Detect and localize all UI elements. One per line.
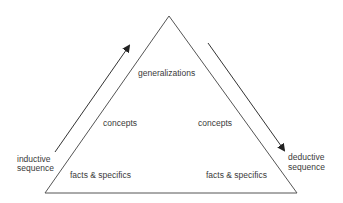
pyramid-triangle [45,16,297,193]
deductive-arrow [208,43,284,150]
concepts-right-label: concepts [198,118,232,128]
induction-deduction-diagram: generalizations concepts concepts facts … [0,0,343,203]
deductive-label-line2: sequence [288,162,325,172]
deductive-label-line1: deductive [288,152,324,162]
generalizations-label: generalizations [138,68,195,78]
facts-right-label: facts & specifics [206,170,267,180]
inductive-arrow [55,46,129,152]
concepts-left-label: concepts [103,118,137,128]
facts-left-label: facts & specifics [70,170,131,180]
inductive-label-line2: sequence [17,163,54,173]
